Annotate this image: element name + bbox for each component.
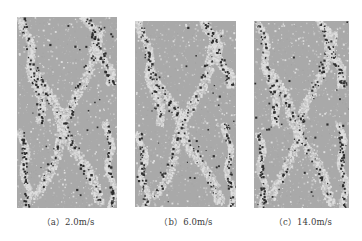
panel-b-image: [135, 21, 236, 207]
figure: （a）2.0m/s （b）6.0m/s （c）14.0m/s: [0, 0, 362, 241]
panel-b-fracture-pattern: [135, 21, 236, 207]
caption-b: （b）6.0m/s: [159, 215, 212, 227]
panel-c-fracture-pattern: [254, 21, 349, 208]
panel-a-image: [17, 17, 117, 208]
panel-c-image: [254, 21, 349, 208]
caption-a: （a）2.0m/s: [42, 215, 95, 227]
panel-a-fracture-pattern: [17, 17, 117, 208]
caption-c: （c）14.0m/s: [274, 215, 332, 227]
